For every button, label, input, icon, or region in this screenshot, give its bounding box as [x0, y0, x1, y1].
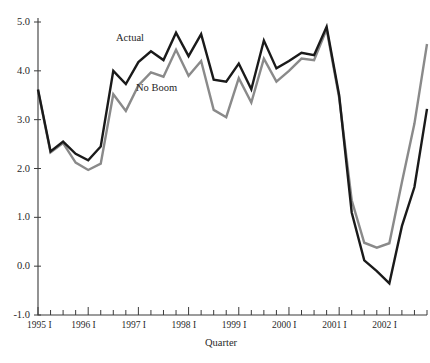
x-tick-label: 1997 I — [121, 321, 146, 331]
y-tick-label: 0.0 — [0, 261, 30, 272]
series-line-no-boom — [38, 29, 427, 247]
x-tick-label: 2001 I — [322, 321, 347, 331]
y-tick-label: -1.0 — [0, 310, 30, 321]
x-tick-label: 2000 I — [272, 321, 297, 331]
series-label-actual: Actual — [116, 33, 144, 44]
x-axis-title: Quarter — [205, 338, 237, 349]
series-label-no-boom: No Boom — [136, 83, 177, 94]
chart-container: 5.04.03.02.01.00.0-1.0 1995 I1996 I1997 … — [0, 0, 430, 363]
y-tick-label: 1.0 — [0, 212, 30, 223]
x-tick-label: 1998 I — [172, 321, 197, 331]
line-chart-plot — [0, 0, 430, 363]
x-tick-label: 1999 I — [222, 321, 247, 331]
x-tick-label: 2002 I — [372, 321, 397, 331]
y-tick-label: 2.0 — [0, 164, 30, 175]
y-tick-label: 5.0 — [0, 17, 30, 28]
x-tick-label: 1995 I — [27, 321, 52, 331]
y-tick-label: 4.0 — [0, 66, 30, 77]
y-tick-label: 3.0 — [0, 115, 30, 126]
x-tick-label: 1996 I — [71, 321, 96, 331]
